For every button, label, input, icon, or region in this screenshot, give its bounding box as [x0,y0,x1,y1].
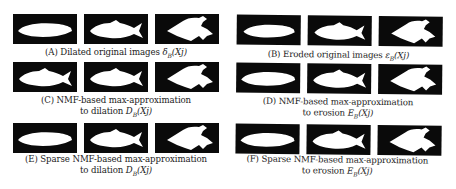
fish-image [13,62,77,92]
fish-image [235,123,299,154]
panel-f-images [235,123,441,155]
fish-image [13,123,77,153]
panel-b-images [237,14,443,46]
panel-c-images [13,62,219,92]
fish-image [236,62,300,93]
panel-e-images [13,123,219,153]
fish-image [307,63,371,94]
panel-f-caption: (F) Sparse NMF-based max-approximation t… [235,153,439,180]
panel-d-images [236,62,442,94]
fish-image [155,14,219,44]
fish-image [84,123,148,153]
fish-image [155,62,219,92]
panel-d-caption: (D) NMF-based max-approximation to erosi… [236,95,440,122]
fish-image [379,16,443,47]
fish-image [378,64,442,95]
fish-image [377,125,441,156]
fish-image [237,14,301,45]
panel-c-caption: (C) NMF-based max-approximation to dilat… [13,95,219,120]
fish-image [84,62,148,92]
fish-image [84,14,148,44]
fish-image [13,14,77,44]
fish-image [308,15,372,46]
fish-image [306,124,370,155]
panel-a-caption: (A) Dilated original images δB(Xj) [13,47,219,61]
fish-image [155,123,219,153]
panel-e-caption: (E) Sparse NMF-based max-approximation t… [13,154,219,179]
panel-a-images [13,14,219,44]
